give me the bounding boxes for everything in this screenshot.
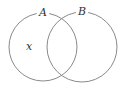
circle-b bbox=[47, 12, 117, 82]
circle-a bbox=[9, 13, 77, 81]
set-label-b: B bbox=[77, 5, 86, 18]
region-a-only-element: x bbox=[26, 40, 33, 53]
set-label-a: A bbox=[38, 6, 47, 19]
venn-diagram: A B x bbox=[0, 0, 120, 88]
